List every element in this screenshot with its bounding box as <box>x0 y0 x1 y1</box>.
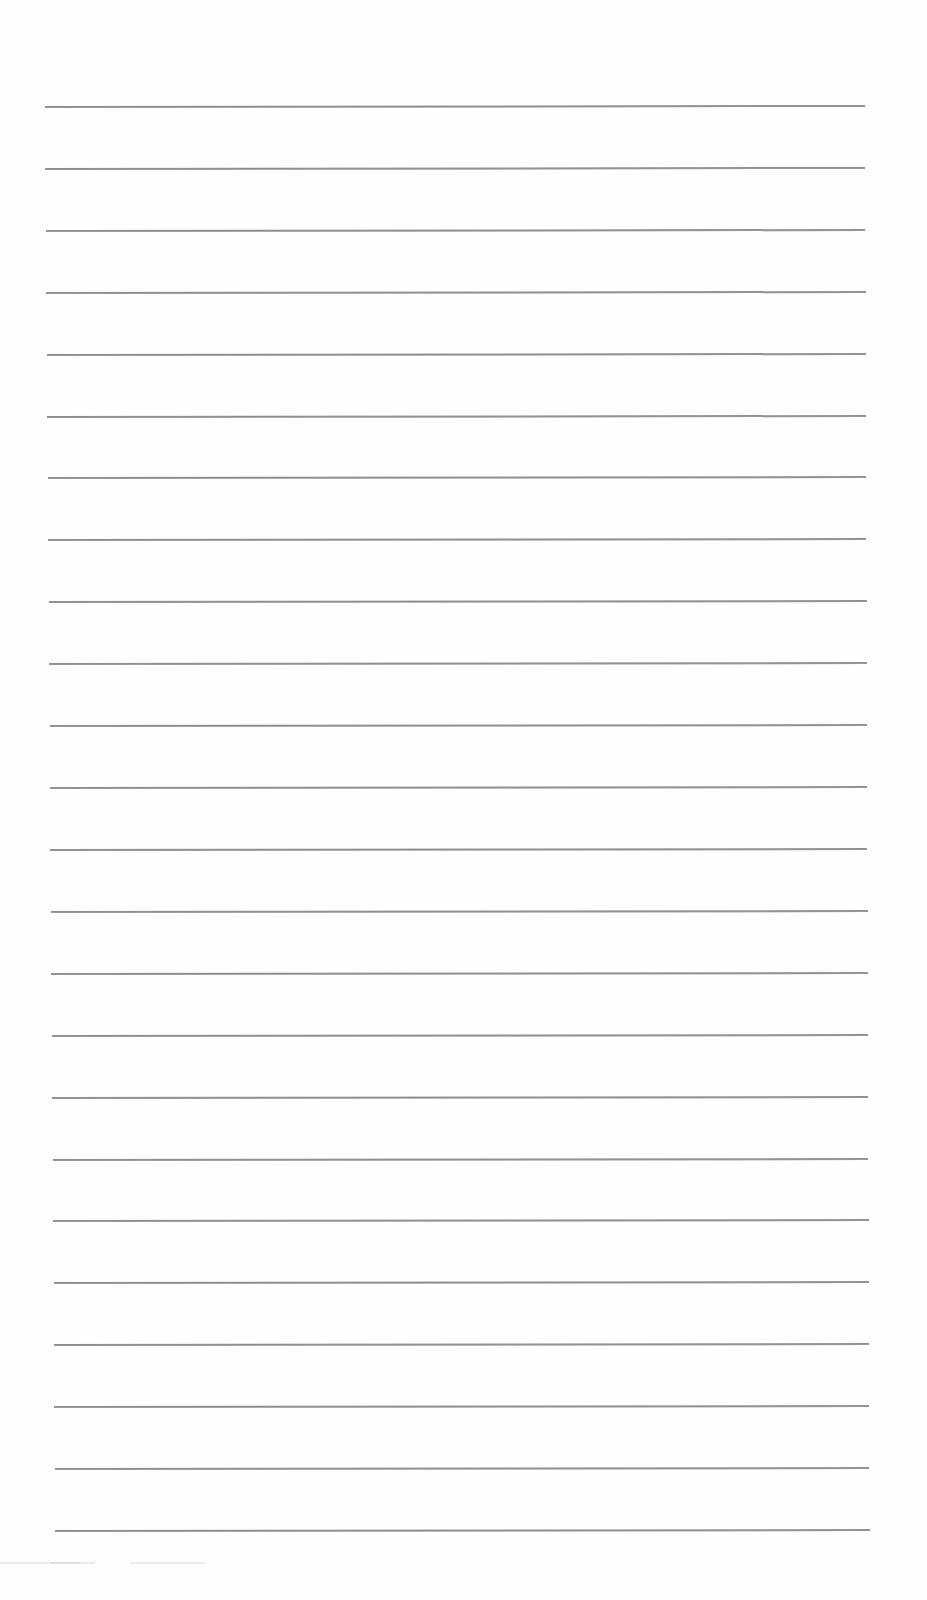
ruled-line <box>52 1034 868 1037</box>
ruled-line <box>49 600 867 603</box>
ruled-line <box>52 1096 868 1099</box>
ruled-line <box>53 1219 869 1222</box>
ruled-line <box>50 848 867 851</box>
ruled-line <box>54 1281 869 1284</box>
scan-artifact <box>50 1562 95 1564</box>
ruled-line <box>55 1529 870 1532</box>
ruled-line <box>53 1158 868 1161</box>
ruled-line <box>54 1343 869 1346</box>
ruled-line <box>47 353 866 356</box>
ruled-line <box>48 538 866 541</box>
ruled-line <box>54 1405 869 1408</box>
ruled-line <box>50 724 867 727</box>
ruled-line <box>48 476 866 479</box>
ruled-line <box>45 105 865 108</box>
ruled-line <box>46 291 866 294</box>
ruled-line <box>49 662 867 665</box>
ruled-paper-page <box>0 0 927 1600</box>
ruled-line <box>51 972 868 975</box>
scan-artifact <box>130 1562 205 1564</box>
ruled-line <box>47 415 866 418</box>
ruled-line <box>46 229 865 232</box>
ruled-line <box>45 167 865 170</box>
ruled-line <box>55 1467 869 1470</box>
ruled-line <box>51 910 868 913</box>
ruled-line <box>50 786 867 789</box>
